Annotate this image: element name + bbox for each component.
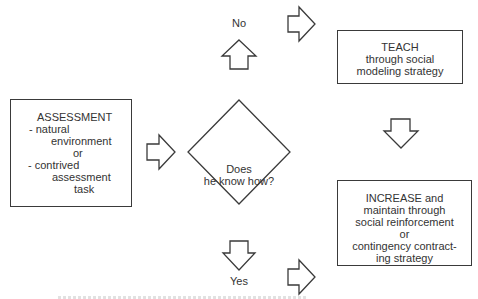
block-arrow-down-icon bbox=[222, 241, 256, 271]
assessment-line-task: task bbox=[74, 183, 94, 196]
decision-text-line2: he know how? bbox=[189, 175, 289, 188]
block-arrow-right-icon bbox=[288, 260, 318, 294]
assessment-line-assessment: assessment bbox=[52, 171, 111, 184]
block-arrow-up-icon bbox=[222, 40, 256, 70]
yes-label: Yes bbox=[230, 275, 248, 287]
assessment-line-natural: - natural bbox=[29, 123, 69, 136]
decision-text-line1: Does bbox=[189, 163, 289, 176]
block-arrow-down-icon bbox=[383, 119, 419, 149]
assessment-line-contrived: - contrived bbox=[28, 159, 79, 172]
no-label: No bbox=[232, 17, 246, 29]
increase-line-2: maintain through bbox=[338, 204, 471, 217]
assessment-box: ASSESSMENT - natural environment or - co… bbox=[10, 99, 132, 207]
assessment-line-or: or bbox=[73, 147, 83, 160]
decision-diamond bbox=[187, 99, 291, 205]
block-arrow-right-icon bbox=[288, 7, 318, 41]
assessment-line-environment: environment bbox=[51, 135, 112, 148]
teach-line-3: modeling strategy bbox=[338, 65, 462, 78]
increase-line-6: ing strategy bbox=[338, 252, 471, 265]
increase-box: INCREASE and maintain through social rei… bbox=[337, 180, 472, 266]
increase-line-1: INCREASE and bbox=[338, 192, 471, 205]
increase-line-3: social reinforcement bbox=[338, 216, 471, 229]
assessment-title: ASSESSMENT bbox=[37, 111, 112, 124]
block-arrow-right-icon bbox=[147, 135, 177, 169]
teach-line-title: TEACH bbox=[338, 41, 462, 54]
increase-line-4: or bbox=[338, 228, 471, 241]
teach-line-2: through social bbox=[338, 53, 462, 66]
increase-line-5: contingency contract- bbox=[338, 240, 471, 253]
teach-box: TEACH through social modeling strategy bbox=[337, 30, 463, 84]
